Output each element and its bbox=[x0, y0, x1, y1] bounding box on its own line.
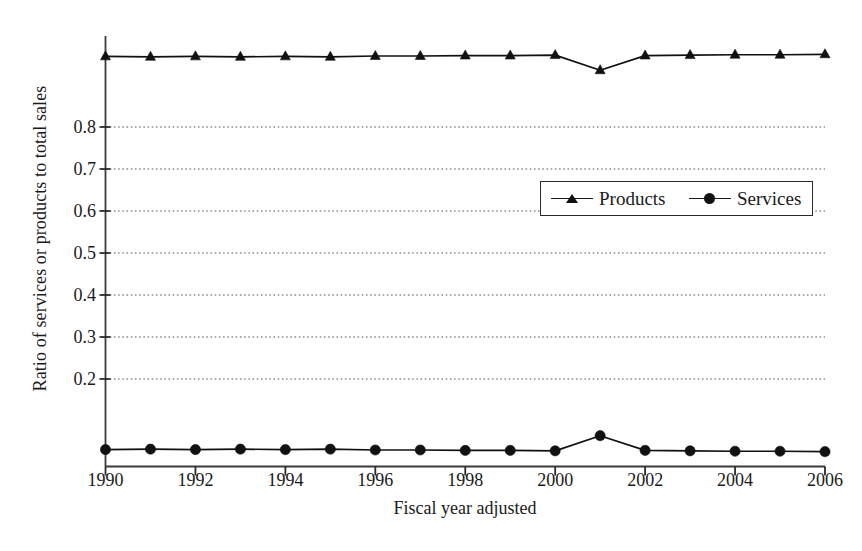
plot-area bbox=[0, 0, 862, 551]
circle-marker-icon bbox=[689, 191, 731, 207]
x-axis-title: Fiscal year adjusted bbox=[105, 498, 825, 519]
series-products bbox=[101, 49, 831, 74]
legend-entry-services: Services bbox=[689, 182, 801, 215]
axis-lines bbox=[106, 36, 826, 467]
gridlines bbox=[106, 127, 826, 379]
x-tick-label: 1996 bbox=[345, 470, 405, 490]
series-services bbox=[100, 431, 830, 457]
x-tick-label: 1990 bbox=[76, 470, 136, 490]
x-tick-label: 2004 bbox=[705, 470, 765, 490]
legend-label-services: Services bbox=[737, 188, 801, 210]
x-tick-label: 2002 bbox=[615, 470, 675, 490]
x-tick-label: 1994 bbox=[255, 470, 315, 490]
chart-figure: Ratio of services or products to total s… bbox=[0, 0, 862, 551]
x-tick-label: 2000 bbox=[525, 470, 585, 490]
x-tick-label: 2006 bbox=[795, 470, 855, 490]
x-tick-label: 1998 bbox=[435, 470, 495, 490]
x-tick-label: 1992 bbox=[165, 470, 225, 490]
triangle-marker-icon bbox=[551, 191, 593, 207]
legend-label-products: Products bbox=[599, 188, 666, 210]
legend-entry-products: Products bbox=[551, 182, 666, 215]
chart-legend: Products Services bbox=[540, 181, 813, 216]
